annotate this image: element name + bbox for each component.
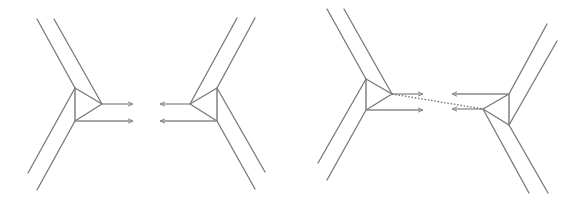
diagram-canvas <box>0 0 577 203</box>
triangle-core <box>75 88 102 121</box>
bond-line <box>509 125 548 193</box>
bond-line <box>483 109 529 193</box>
bond-line <box>509 24 547 94</box>
bond-line <box>37 19 75 88</box>
bond-line <box>318 79 366 163</box>
molecular-junction-diagram <box>0 0 577 203</box>
left-panel-separated <box>28 18 265 190</box>
bond-line <box>37 121 75 190</box>
triangle-core <box>483 94 509 125</box>
bond-line <box>217 121 255 189</box>
triangle-core <box>366 79 392 110</box>
triangle-core <box>190 88 217 121</box>
bond-line <box>54 19 102 104</box>
bond-line <box>217 88 265 172</box>
molecule-left <box>318 9 423 180</box>
molecule-right <box>452 24 557 193</box>
molecule-right <box>160 18 265 189</box>
molecule-left <box>28 19 133 190</box>
bond-line <box>28 88 75 173</box>
dotted-link <box>392 94 483 109</box>
bond-line <box>217 18 255 88</box>
right-panel-connected <box>318 9 557 193</box>
bond-line <box>509 41 557 125</box>
bond-line <box>190 18 237 104</box>
bond-line <box>327 9 366 79</box>
bond-line <box>327 110 366 180</box>
